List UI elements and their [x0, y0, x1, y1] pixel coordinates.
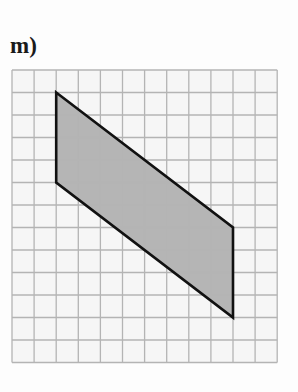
grid-figure	[0, 0, 298, 392]
